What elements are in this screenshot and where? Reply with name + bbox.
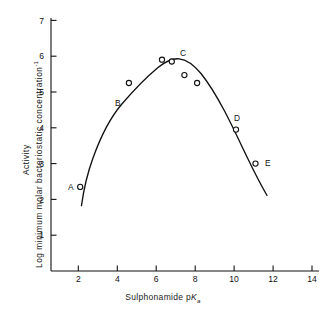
y-tick-label-7: 7 bbox=[32, 16, 44, 26]
x-tick-label-4: 4 bbox=[110, 274, 124, 284]
data-point-peak[interactable] bbox=[159, 57, 164, 62]
x-axis-title-subscript: a bbox=[197, 297, 201, 304]
data-point-a[interactable] bbox=[78, 184, 83, 189]
y-tick-label-5: 5 bbox=[32, 87, 44, 97]
y-tick-label-6: 6 bbox=[32, 51, 44, 61]
x-tick-label-14: 14 bbox=[305, 274, 319, 284]
plot-area bbox=[0, 0, 326, 316]
point-label-d: D bbox=[234, 113, 240, 123]
data-point-lower-right[interactable] bbox=[195, 80, 200, 85]
data-point-d[interactable] bbox=[233, 127, 238, 132]
data-point-mid-right[interactable] bbox=[182, 73, 187, 78]
data-point-b[interactable] bbox=[126, 80, 131, 85]
x-axis-title: Sulphonamide pKa bbox=[0, 292, 326, 304]
caption-fragment bbox=[0, 306, 326, 316]
y-tick-label-4: 4 bbox=[32, 123, 44, 133]
chart-figure: Activity Log minimum molar bacteriostati… bbox=[0, 0, 326, 316]
point-label-c: C bbox=[180, 48, 186, 58]
point-label-b: B bbox=[115, 98, 121, 108]
data-point-e[interactable] bbox=[253, 161, 258, 166]
fitted-curve bbox=[82, 59, 268, 206]
point-label-e: E bbox=[265, 158, 271, 168]
y-tick-label-2: 2 bbox=[32, 195, 44, 205]
x-tick-label-6: 6 bbox=[149, 274, 163, 284]
y-tick-marks bbox=[51, 20, 57, 235]
x-tick-label-8: 8 bbox=[188, 274, 202, 284]
y-tick-label-3: 3 bbox=[32, 159, 44, 169]
x-tick-label-12: 12 bbox=[266, 274, 280, 284]
x-tick-label-2: 2 bbox=[71, 274, 85, 284]
point-label-a: A bbox=[68, 182, 74, 192]
y-tick-label-1: 1 bbox=[32, 230, 44, 240]
x-tick-marks bbox=[78, 266, 312, 272]
data-point-c[interactable] bbox=[169, 59, 174, 64]
x-tick-label-10: 10 bbox=[227, 274, 241, 284]
